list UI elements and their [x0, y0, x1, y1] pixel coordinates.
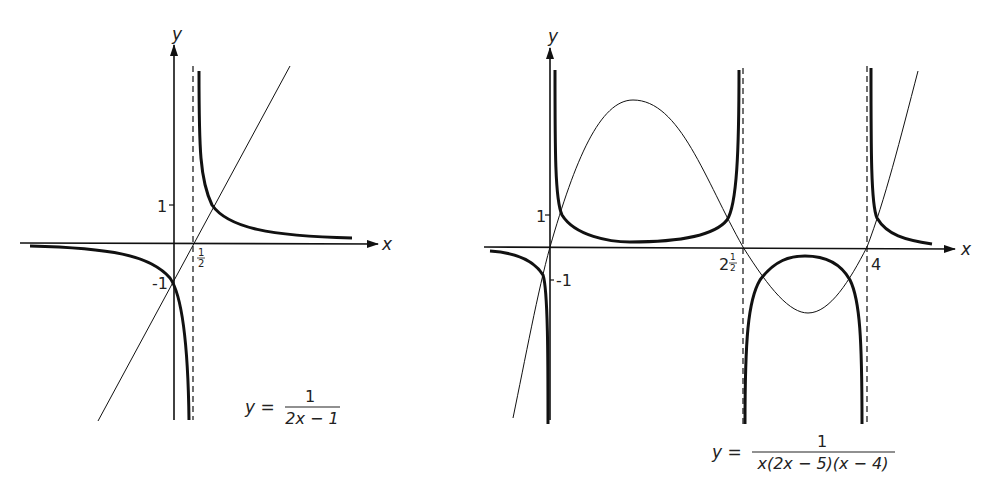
- figure: y x 1 -1 1 2 y = 1 2x − 1 y x: [0, 0, 994, 496]
- right-y-axis-label: y: [547, 26, 559, 46]
- left-curve-left-branch: [30, 246, 189, 420]
- left-chart: y x 1 -1 1 2 y = 1 2x − 1: [20, 24, 393, 428]
- right-curve-branch-1: [490, 251, 548, 424]
- left-tick-label-half-num: 1: [198, 247, 204, 258]
- left-tick-label-neg1: -1: [152, 274, 168, 293]
- left-tick-label-1: 1: [157, 197, 167, 216]
- right-x-axis-label: x: [960, 239, 972, 259]
- left-y-axis-label: y: [171, 24, 183, 44]
- right-tick-label-4: 4: [871, 255, 881, 274]
- right-cubic-curve: [513, 71, 918, 418]
- right-tick-label-2-5: 2 1 2: [719, 252, 737, 274]
- right-eq-denominator: x(2x − 5)(x − 4): [756, 454, 888, 473]
- right-eq-lhs: y =: [711, 442, 742, 462]
- left-eq-lhs: y =: [244, 397, 275, 417]
- right-tick-label-2-5-den: 2: [730, 263, 736, 273]
- right-tick-label-1: 1: [536, 207, 546, 226]
- left-equation: y = 1 2x − 1: [244, 387, 340, 428]
- right-tick-label-neg1: -1: [556, 271, 572, 290]
- left-tick-label-half-den: 2: [198, 258, 204, 269]
- right-tick-label-2-5-whole: 2: [719, 255, 729, 274]
- left-x-axis: [20, 243, 378, 244]
- right-curve-branch-3: [745, 256, 862, 424]
- right-curve-branch-4: [871, 68, 932, 244]
- right-chart: y x 1 -1 2 1 2 4 y = 1 x(2x − 5)(x − 4): [484, 26, 972, 473]
- right-x-axis: [484, 247, 955, 249]
- right-curve-branch-2: [555, 70, 739, 242]
- left-eq-denominator: 2x − 1: [285, 409, 338, 428]
- left-x-axis-label: x: [381, 234, 393, 254]
- left-curve-right-branch: [199, 71, 352, 238]
- left-eq-numerator: 1: [305, 387, 315, 406]
- right-eq-numerator: 1: [817, 432, 827, 451]
- right-tick-label-2-5-num: 1: [730, 252, 736, 262]
- right-equation: y = 1 x(2x − 5)(x − 4): [711, 432, 895, 473]
